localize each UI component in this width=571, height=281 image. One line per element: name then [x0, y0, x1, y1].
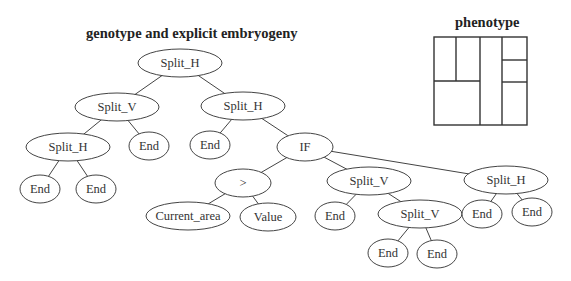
tree-node-end: End	[76, 175, 116, 203]
tree-node-if: IF	[277, 133, 333, 161]
tree-node-split-v: Split_V	[378, 200, 462, 228]
svg-text:End: End	[30, 182, 51, 196]
svg-text:Value: Value	[254, 210, 283, 224]
tree-node-split-h: Split_H	[26, 133, 110, 161]
svg-text:End: End	[427, 247, 448, 261]
svg-text:Current_area: Current_area	[155, 209, 221, 223]
svg-text:Split_V: Split_V	[350, 174, 389, 188]
phenotype-layout	[434, 37, 527, 125]
svg-text:Split_H: Split_H	[161, 56, 200, 70]
tree-node-end: End	[190, 131, 230, 159]
tree-node-end: End	[462, 200, 502, 228]
svg-text:End: End	[139, 139, 160, 153]
tree-node-end: End	[315, 202, 355, 230]
svg-text:End: End	[200, 138, 221, 152]
svg-text:Split_V: Split_V	[98, 100, 137, 114]
tree-node-: >	[215, 169, 271, 197]
tree-node-end: End	[368, 239, 408, 267]
svg-text:>: >	[239, 176, 246, 190]
svg-text:End: End	[325, 209, 346, 223]
svg-text:Split_H: Split_H	[224, 99, 263, 113]
svg-text:IF: IF	[299, 140, 310, 154]
tree-node-end: End	[129, 132, 169, 160]
svg-text:End: End	[86, 182, 107, 196]
tree-node-split-h: Split_H	[201, 92, 285, 120]
tree-node-split-v: Split_V	[75, 93, 159, 121]
svg-text:End: End	[522, 205, 543, 219]
tree-node-current-area: Current_area	[146, 202, 230, 230]
tree-node-end: End	[512, 198, 552, 226]
genotype-tree: Split_HSplit_VSplit_HSplit_HEndEndIFEndE…	[0, 0, 571, 281]
svg-text:End: End	[378, 246, 399, 260]
svg-text:Split_H: Split_H	[487, 173, 526, 187]
tree-node-split-v: Split_V	[327, 167, 411, 195]
tree-node-value: Value	[240, 203, 296, 231]
svg-text:Split_V: Split_V	[401, 207, 440, 221]
tree-node-end: End	[417, 240, 457, 268]
tree-node-split-h: Split_H	[464, 166, 548, 194]
svg-text:Split_H: Split_H	[49, 140, 88, 154]
svg-text:End: End	[472, 207, 493, 221]
tree-node-end: End	[20, 175, 60, 203]
tree-node-split-h: Split_H	[138, 49, 222, 77]
